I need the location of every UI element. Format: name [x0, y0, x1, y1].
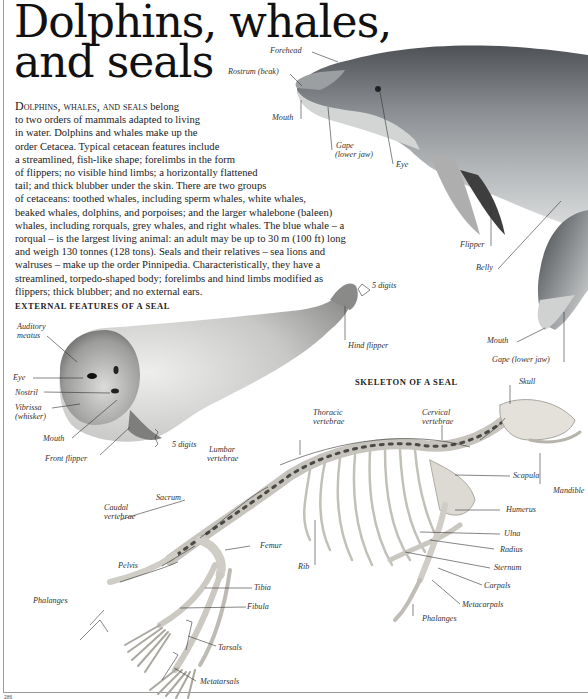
label-gape-2: Gape (lower jaw)	[492, 355, 550, 365]
label-front-5-digits: 5 digits	[172, 440, 196, 450]
label-gape-sub: (lower jaw)	[335, 150, 373, 160]
intro-line-1: Dolphins, whales, and seals belong	[15, 100, 415, 113]
label-sternum: Sternum	[494, 563, 521, 573]
label-nostril: Nostril	[15, 388, 38, 398]
label-thoracic-2: vertebrae	[313, 417, 344, 427]
label-eye: Eye	[396, 160, 408, 170]
label-forehead: Forehead	[270, 46, 302, 56]
label-radius: Radius	[500, 545, 523, 555]
intro-line: of flippers; no visible hind limbs; a ho…	[15, 166, 415, 179]
label-rib: Rib	[298, 562, 309, 572]
label-flipper: Flipper	[460, 240, 485, 250]
label-scapula: Scapula	[513, 471, 539, 481]
intro-line: tail; and thick blubber under the skin. …	[15, 179, 415, 192]
intro-line: of cetaceans: toothed whales, including …	[15, 192, 415, 205]
label-lumbar-2: vertebrae	[207, 454, 238, 464]
label-skull: Skull	[519, 377, 535, 387]
intro-line: to two orders of mammals adapted to livi…	[15, 113, 415, 126]
label-belly: Belly	[476, 263, 493, 273]
label-mouth: Mouth	[272, 113, 293, 123]
heading-skeleton: SKELETON OF A SEAL	[355, 377, 458, 387]
intro-line: whales, including rorquals, grey whales,…	[15, 219, 415, 232]
dolphin-lower-illustration	[538, 210, 588, 330]
label-metacarpals: Metacarpals	[462, 600, 503, 610]
label-ulna: Ulna	[504, 529, 520, 539]
label-carpals: Carpals	[484, 581, 510, 591]
label-phalanges-fore: Phalanges	[422, 614, 457, 624]
intro-line: rorqual – is the largest living animal: …	[15, 232, 415, 245]
label-cervical-2: vertebrae	[422, 417, 453, 427]
intro-line: streamlined, torpedo-shaped body; foreli…	[15, 272, 415, 285]
intro-lead: Dolphins, whales, and seals	[15, 99, 148, 113]
label-sacrum: Sacrum	[156, 493, 181, 503]
page-title: Dolphins, whales, and seals	[14, 2, 391, 82]
intro-line: and weigh 130 tonnes (128 tons). Seals a…	[15, 245, 415, 258]
label-femur: Femur	[260, 541, 282, 551]
label-humerus: Humerus	[506, 505, 536, 515]
label-metatarsals: Metatarsals	[200, 677, 239, 687]
heading-external-features: EXTERNAL FEATURES OF A SEAL	[15, 301, 170, 311]
label-rostrum: Rostrum (beak)	[228, 67, 279, 77]
label-phalanges-hind: Phalanges	[33, 596, 68, 606]
label-pelvis: Pelvis	[118, 561, 138, 571]
label-mandible: Mandible	[553, 486, 584, 496]
label-auditory-meatus-2: meatus	[17, 331, 40, 341]
label-tarsals: Tarsals	[218, 643, 242, 653]
intro-line: flippers; thick blubber; and no external…	[15, 285, 415, 298]
intro-line: beaked whales, dolphins, and porpoises; …	[15, 206, 415, 219]
label-tibia: Tibia	[254, 583, 271, 593]
label-mouth-2: Mouth	[487, 336, 508, 346]
label-eye-seal: Eye	[13, 373, 25, 383]
label-vibrissa-2: (whisker)	[15, 412, 46, 422]
label-hind-flipper: Hind flipper	[348, 341, 388, 351]
label-caudal-2: vertebrae	[104, 512, 135, 522]
label-hind-5-digits: 5 digits	[372, 281, 396, 291]
intro-line: in water. Dolphins and whales make up th…	[15, 126, 415, 139]
title-line-2: and seals	[14, 42, 391, 82]
label-fibula: Fibula	[247, 602, 269, 612]
intro-line: walruses – make up the order Pinnipedia.…	[15, 258, 415, 271]
label-mouth-seal: Mouth	[43, 434, 64, 444]
label-front-flipper: Front flipper	[45, 454, 87, 464]
intro-paragraph: Dolphins, whales, and seals belong to tw…	[15, 100, 415, 298]
